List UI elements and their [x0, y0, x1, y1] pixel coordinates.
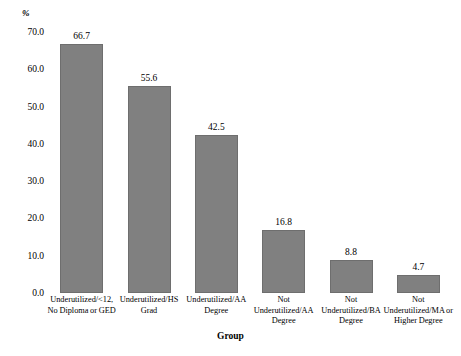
bar-group: 4.7	[397, 32, 440, 293]
y-axis-tick-labels: 0.010.020.030.040.050.060.070.0	[0, 0, 44, 356]
y-axis-tick-label: 70.0	[0, 27, 44, 37]
bar-group: 55.6	[128, 32, 171, 293]
bar	[397, 275, 440, 293]
y-axis-tick-label: 10.0	[0, 251, 44, 261]
bar	[128, 86, 171, 293]
bar	[330, 260, 373, 293]
y-axis-tick-label: 50.0	[0, 102, 44, 112]
y-axis-tick-label: 30.0	[0, 176, 44, 186]
bar-group: 8.8	[330, 32, 373, 293]
y-axis-tick-label: 60.0	[0, 64, 44, 74]
bar	[262, 230, 305, 293]
plot-area: 66.755.642.516.88.84.7	[48, 32, 452, 293]
bar-value-label: 16.8	[275, 217, 292, 228]
bar-value-label: 4.7	[412, 262, 424, 273]
bar-group: 66.7	[60, 32, 103, 293]
bar-group: 16.8	[262, 32, 305, 293]
bar-value-label: 55.6	[141, 73, 158, 84]
bar-chart: % 0.010.020.030.040.050.060.070.0 66.755…	[0, 0, 461, 356]
x-axis-title: Group	[0, 331, 461, 342]
y-axis-tick-label: 20.0	[0, 213, 44, 223]
bar-value-label: 8.8	[345, 247, 357, 258]
bar	[60, 44, 103, 293]
y-axis-tick-label: 0.0	[0, 288, 44, 298]
y-axis-tick-label: 40.0	[0, 139, 44, 149]
x-axis-tick-labels: Underutilized/<12,No Diploma or GEDUnder…	[48, 295, 452, 329]
bar-group: 42.5	[195, 32, 238, 293]
bar-value-label: 66.7	[73, 31, 90, 42]
bar-value-label: 42.5	[208, 122, 225, 133]
x-axis-tick-label: NotUnderutilized/MA orHigher Degree	[379, 295, 458, 327]
bar	[195, 135, 238, 293]
